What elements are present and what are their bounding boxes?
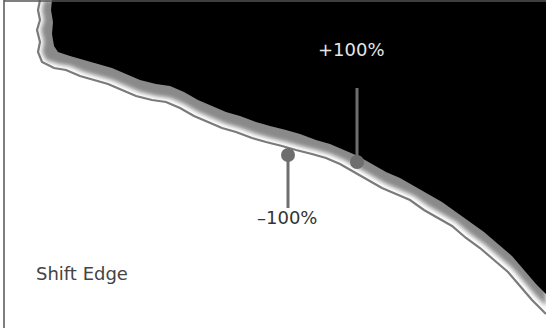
plus-marker-dot: [350, 155, 364, 169]
minus-100-label: –100%: [257, 207, 317, 228]
plus-100-label: +100%: [318, 39, 385, 60]
minus-marker-dot: [281, 148, 295, 162]
diagram-caption: Shift Edge: [36, 263, 128, 284]
